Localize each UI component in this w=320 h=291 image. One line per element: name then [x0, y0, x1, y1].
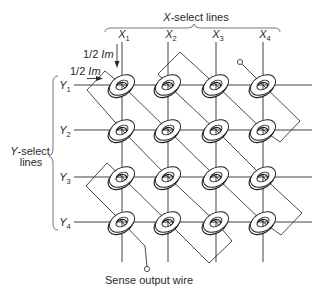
sense-input-terminal-icon — [237, 59, 242, 64]
x4-label: X4 — [258, 28, 271, 43]
x3-label: X3 — [211, 28, 224, 43]
y-select-label-line2: lines — [20, 156, 43, 168]
core-memory-diagram: X-select lines X1 X2 X3 X4 Y-select line… — [0, 0, 320, 291]
core-x3-y4 — [199, 207, 233, 238]
sense-output-terminal-icon — [144, 266, 149, 271]
y-select-brace — [49, 76, 58, 230]
core-x2-y4 — [151, 207, 185, 238]
x-select-brace — [105, 24, 280, 32]
y2-label: Y2 — [59, 124, 71, 139]
x1-label: X1 — [117, 28, 130, 43]
core-x2-y1 — [151, 70, 185, 101]
core-x1-y3 — [105, 162, 139, 193]
core-x4-y4 — [246, 207, 280, 238]
y-select-lines — [74, 85, 312, 222]
core-x3-y1 — [199, 70, 233, 101]
y-drive-current-label: 1/2 Im — [70, 65, 101, 77]
sense-output-label: Sense output wire — [105, 274, 193, 286]
y4-label: Y4 — [59, 216, 71, 231]
core-x4-y3 — [246, 162, 280, 193]
core-x4-y2 — [246, 115, 280, 146]
x2-label: X2 — [164, 28, 177, 43]
core-x3-y3 — [199, 162, 233, 193]
y1-label: Y1 — [59, 79, 71, 94]
core-x4-y1 — [246, 70, 280, 101]
x-drive-arrow-icon — [115, 44, 120, 68]
y3-label: Y3 — [59, 171, 71, 186]
core-x2-y3 — [151, 162, 185, 193]
core-x2-y2 — [151, 115, 185, 146]
x-select-label: X-select lines — [162, 11, 229, 23]
core-x3-y2 — [199, 115, 233, 146]
x-drive-current-label: 1/2 Im — [83, 48, 114, 60]
core-array — [105, 70, 280, 238]
core-x1-y2 — [105, 115, 139, 146]
